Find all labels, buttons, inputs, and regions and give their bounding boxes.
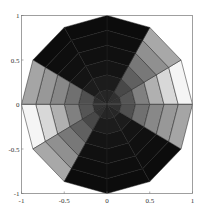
y-tick-label: 1 xyxy=(16,12,20,20)
y-tick-label: 0.5 xyxy=(11,57,20,65)
y-tick-label: -0.5 xyxy=(8,146,20,154)
x-tick-label: 1 xyxy=(191,197,195,205)
x-tick-label: 0.5 xyxy=(145,197,154,205)
x-tick-label: 0 xyxy=(105,197,109,205)
y-tick-label: 0 xyxy=(16,101,20,109)
x-tick-label: -0.5 xyxy=(59,197,71,205)
x-tick-label: -1 xyxy=(19,197,25,205)
polar-surface-chart: -1-0.500.51 10.50-0.5-1 xyxy=(0,0,207,214)
y-tick-label: -1 xyxy=(14,190,20,198)
